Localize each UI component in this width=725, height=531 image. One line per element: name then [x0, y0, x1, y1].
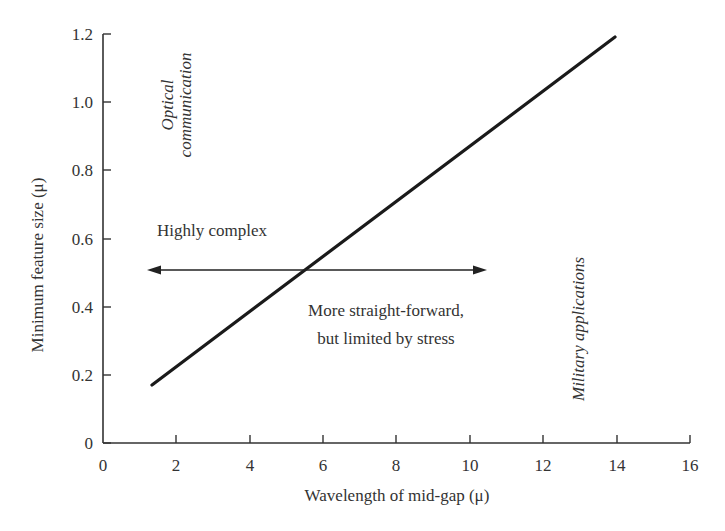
x-tick-label: 12	[535, 456, 552, 475]
y-ticks	[103, 34, 111, 443]
x-tick-label: 0	[99, 456, 108, 475]
y-axis-label: Minimum feature size (μ)	[28, 178, 47, 353]
arrowhead-right-icon	[473, 266, 487, 275]
annotation-military: Military applications	[569, 257, 588, 402]
y-tick-label: 0.4	[72, 298, 94, 317]
annotation-more-straightforward: More straight-forward,	[308, 301, 464, 320]
chart: 0 0.2 0.4 0.6 0.8 1.0 1.2 0 2 4 6 8 10 1…	[0, 0, 725, 531]
annotation-optical: Optical	[158, 79, 177, 130]
y-tick-labels: 0 0.2 0.4 0.6 0.8 1.0 1.2	[72, 25, 94, 453]
annotation-communication: communication	[176, 53, 195, 158]
x-ticks	[176, 435, 690, 443]
x-tick-label: 2	[172, 456, 181, 475]
x-tick-label: 10	[462, 456, 479, 475]
y-tick-label: 1.2	[72, 25, 93, 44]
x-tick-label: 16	[682, 456, 699, 475]
x-tick-labels: 0 2 4 6 8 10 12 14 16	[99, 456, 699, 475]
y-tick-label: 0	[85, 434, 94, 453]
arrowhead-left-icon	[147, 266, 161, 275]
x-tick-label: 6	[319, 456, 328, 475]
double-arrow	[147, 266, 487, 275]
x-tick-label: 14	[609, 456, 627, 475]
annotation-limited-by-stress: but limited by stress	[317, 329, 454, 348]
y-tick-label: 1.0	[72, 93, 93, 112]
x-axis-label: Wavelength of mid-gap (μ)	[305, 486, 490, 505]
y-tick-label: 0.6	[72, 230, 93, 249]
y-tick-label: 0.8	[72, 161, 93, 180]
annotation-highly-complex: Highly complex	[157, 221, 268, 240]
x-tick-label: 8	[392, 456, 401, 475]
x-tick-label: 4	[246, 456, 255, 475]
y-tick-label: 0.2	[72, 366, 93, 385]
